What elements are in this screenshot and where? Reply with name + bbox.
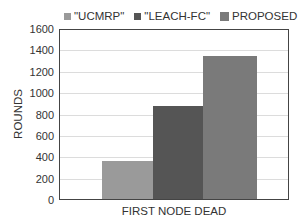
bar-proposed	[203, 56, 257, 199]
legend-swatch-proposed	[220, 12, 229, 21]
y-tick: 1400	[14, 44, 54, 56]
legend-swatch-leach-fc	[134, 13, 141, 20]
y-tick: 400	[14, 151, 54, 163]
chart-legend: "UCMRP" "LEACH-FC" PROPOSED	[64, 10, 297, 22]
y-tick: 1600	[14, 23, 54, 35]
plot-area	[59, 29, 289, 200]
legend-item-leach-fc: "LEACH-FC"	[134, 10, 210, 22]
bar-leach-fc	[153, 106, 203, 199]
y-tick: 800	[14, 109, 54, 121]
legend-item-ucmrp: "UCMRP"	[64, 10, 124, 22]
y-tick: 600	[14, 130, 54, 142]
y-tick: 0	[14, 194, 54, 206]
y-tick: 200	[14, 173, 54, 185]
legend-item-proposed: PROPOSED	[220, 10, 297, 22]
y-tick: 1200	[14, 66, 54, 78]
legend-label-leach-fc: "LEACH-FC"	[144, 10, 210, 22]
y-tick: 1000	[14, 87, 54, 99]
x-axis-label: FIRST NODE DEAD	[59, 205, 289, 217]
bar-ucmrp	[102, 161, 153, 199]
legend-label-ucmrp: "UCMRP"	[74, 10, 124, 22]
gridline	[60, 50, 288, 51]
legend-swatch-ucmrp	[64, 13, 71, 20]
legend-label-proposed: PROPOSED	[232, 10, 297, 22]
